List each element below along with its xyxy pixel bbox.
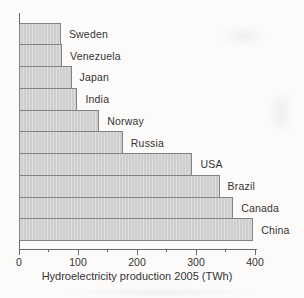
x-major-tick-300 <box>196 249 197 256</box>
x-major-tick-200 <box>137 249 138 256</box>
bar-norway <box>19 110 99 133</box>
scan-smudge <box>220 26 266 46</box>
bar-label-russia: Russia <box>131 137 164 148</box>
x-tick-label-300: 300 <box>187 257 205 268</box>
bar-sweden <box>19 23 61 46</box>
x-minor-tick-50 <box>48 249 49 253</box>
bar-label-sweden: Sweden <box>69 29 108 40</box>
bar-venezuela <box>19 44 62 67</box>
x-axis-line <box>19 249 257 250</box>
bar-chart-figure: SwedenVenezuelaJapanIndiaNorwayRussiaUSA… <box>0 0 304 298</box>
bar-label-usa: USA <box>200 159 222 170</box>
bar-japan <box>19 66 72 89</box>
bar-label-india: India <box>85 94 109 105</box>
x-minor-tick-350 <box>225 249 226 253</box>
bar-canada <box>19 197 233 220</box>
x-minor-tick-150 <box>107 249 108 253</box>
bar-usa <box>19 153 192 176</box>
x-tick-label-200: 200 <box>128 257 146 268</box>
bar-india <box>19 88 77 111</box>
bar-label-japan: Japan <box>80 72 110 83</box>
scan-smudge <box>60 288 260 297</box>
bar-brazil <box>19 175 220 198</box>
bar-russia <box>19 131 123 154</box>
x-tick-label-0: 0 <box>16 257 22 268</box>
x-major-tick-400 <box>255 249 256 256</box>
x-major-tick-100 <box>78 249 79 256</box>
x-minor-tick-250 <box>166 249 167 253</box>
bar-label-china: China <box>261 224 289 235</box>
scan-smudge <box>268 90 294 134</box>
bar-label-brazil: Brazil <box>228 181 255 192</box>
bar-label-canada: Canada <box>241 203 279 214</box>
x-tick-label-400: 400 <box>246 257 264 268</box>
bar-label-venezuela: Venezuela <box>70 50 121 61</box>
bar-label-norway: Norway <box>107 116 144 127</box>
x-tick-label-100: 100 <box>69 257 87 268</box>
x-major-tick-0 <box>19 249 20 256</box>
x-axis-title: Hydroelectricity production 2005 (TWh) <box>42 271 233 282</box>
bar-china <box>19 218 253 241</box>
